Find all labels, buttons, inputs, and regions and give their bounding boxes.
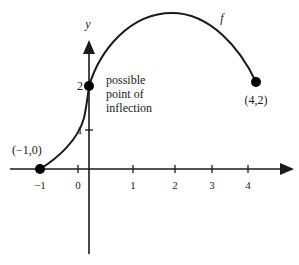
y-tick-label-2: 2: [77, 79, 83, 93]
function-graph: −1 0 1 2 3 4 1 2 y f (−1,0) (4,2) possib…: [0, 0, 299, 265]
function-label: f: [220, 11, 225, 25]
inflection-annotation: possible point of inflection: [106, 73, 152, 115]
x-tick-label-3: 3: [209, 179, 215, 191]
x-tick-label-2: 2: [172, 179, 178, 191]
graph-canvas: −1 0 1 2 3 4 1 2 y f (−1,0) (4,2) possib…: [0, 0, 299, 265]
inflection-line-3: inflection: [106, 101, 152, 115]
x-tick-label-neg1: −1: [34, 179, 46, 191]
x-tick-label-0: 0: [75, 179, 81, 191]
y-axis-label: y: [84, 17, 91, 31]
x-axis: [10, 163, 294, 175]
point-start: [35, 164, 45, 174]
point-end-label: (4,2): [245, 93, 268, 107]
x-tick-label-1: 1: [130, 179, 136, 191]
inflection-line-1: possible: [106, 73, 145, 87]
x-tick-label-4: 4: [245, 179, 251, 191]
inflection-line-2: point of: [106, 87, 144, 101]
x-axis-arrow-icon: [280, 163, 294, 175]
y-axis-arrow-icon: [83, 40, 95, 54]
point-start-label: (−1,0): [12, 143, 42, 157]
point-end: [251, 77, 261, 87]
point-inflection: [84, 81, 94, 91]
function-curve: [40, 13, 256, 169]
